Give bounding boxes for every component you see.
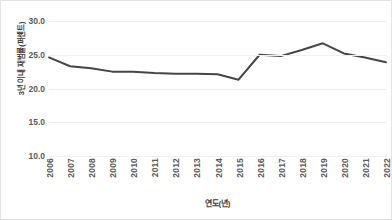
x-tick-label: 2016	[256, 158, 266, 178]
x-tick-label: 2021	[361, 158, 371, 178]
chart-figure: 3년 이내 재범률(퍼센트) 30.025.020.015.010.0 2006…	[0, 0, 392, 220]
y-tick-label: 25.0	[1, 50, 45, 60]
gridline	[49, 122, 386, 123]
gridline	[49, 55, 386, 56]
x-tick-label: 2018	[298, 158, 308, 178]
x-tick-label: 2007	[66, 158, 76, 178]
x-axis-title: 연도(년)	[49, 197, 386, 208]
x-tick-label: 2011	[150, 158, 160, 177]
x-tick-label: 2008	[87, 158, 97, 178]
x-tick-label: 2012	[171, 158, 181, 178]
x-tick-label: 2019	[319, 158, 329, 178]
x-tick-label: 2010	[129, 158, 139, 178]
gridline	[49, 21, 386, 22]
x-tick-label: 2022	[382, 158, 392, 178]
series-line	[49, 43, 386, 79]
y-tick-label: 15.0	[1, 117, 45, 127]
x-tick-label: 2014	[214, 158, 224, 178]
x-tick-label: 2013	[192, 158, 202, 178]
x-tick-label: 2020	[340, 158, 350, 178]
x-tick-label: 2006	[45, 158, 55, 178]
x-tick-label: 2009	[108, 158, 118, 178]
y-tick-label: 20.0	[1, 84, 45, 94]
y-axis-tick-labels: 30.025.020.015.010.0	[1, 1, 45, 220]
x-tick-label: 2015	[235, 158, 245, 178]
gridline	[49, 89, 386, 90]
y-tick-label: 10.0	[1, 151, 45, 161]
x-axis-tick-labels: 2006200720082009201020112012201320142015…	[49, 158, 386, 192]
plot-area	[49, 21, 386, 156]
x-tick-label: 2017	[277, 158, 287, 178]
y-tick-label: 30.0	[1, 16, 45, 26]
